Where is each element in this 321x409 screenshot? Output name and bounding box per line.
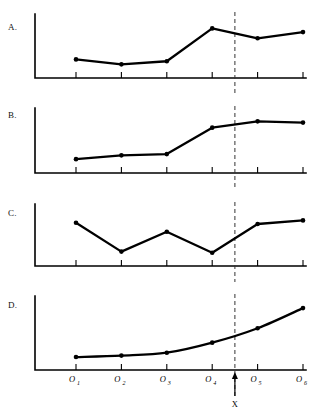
tick-label-base-0: O (69, 374, 75, 384)
panel-A-axes (35, 14, 306, 78)
panel-B-series (76, 121, 303, 159)
panel-A-point-O3 (165, 59, 170, 64)
tick-label-O5: O5 (251, 374, 262, 386)
panel-label-B: B. (8, 110, 17, 120)
panel-A-point-O5 (255, 36, 260, 41)
tick-label-O6: O6 (296, 374, 307, 386)
panel-B-point-O6 (301, 120, 306, 125)
panel-C-series (76, 220, 303, 252)
panel-B-point-O1 (74, 157, 79, 162)
tick-label-base-4: O (251, 374, 257, 384)
panel-A-series (76, 28, 303, 64)
panel-D-point-O5 (255, 326, 260, 331)
tick-label-base-1: O (114, 374, 120, 384)
panel-C (35, 202, 306, 282)
panel-D-point-O2 (119, 353, 124, 358)
panel-B-point-O2 (119, 153, 124, 158)
timeseries-figure: O1O2O3O4O5O6XA.B.C.D. (0, 0, 321, 409)
figure-canvas: O1O2O3O4O5O6X (0, 0, 321, 409)
tick-label-base-5: O (296, 374, 302, 384)
tick-label-sub-3: 4 (213, 380, 216, 386)
panel-C-point-O2 (119, 249, 124, 254)
panel-B (35, 106, 306, 189)
panel-D-point-O1 (74, 355, 79, 360)
panel-D-point-O3 (165, 350, 170, 355)
tick-label-sub-4: 5 (259, 380, 262, 386)
panel-B-point-O5 (255, 119, 260, 124)
tick-label-O4: O4 (205, 374, 216, 386)
panel-C-point-O5 (255, 222, 260, 227)
panel-C-point-O6 (301, 218, 306, 223)
panel-D-series (76, 308, 303, 357)
tick-label-sub-2: 3 (167, 380, 171, 386)
panel-D-point-O6 (301, 306, 306, 311)
panel-C-axes (35, 204, 306, 266)
panel-A-point-O1 (74, 57, 79, 62)
panel-label-C: C. (8, 208, 17, 218)
panel-label-D: D. (8, 300, 17, 310)
tick-label-O2: O2 (114, 374, 125, 386)
tick-label-base-2: O (160, 374, 166, 384)
panel-A-point-O6 (301, 30, 306, 35)
tick-label-sub-5: 6 (304, 380, 307, 386)
panel-label-A: A. (8, 22, 17, 32)
arrow-head (232, 372, 238, 379)
tick-label-O1: O1 (69, 374, 80, 386)
intervention-label: X (232, 399, 238, 409)
panel-B-point-O3 (165, 152, 170, 157)
panel-A-point-O4 (210, 26, 215, 31)
panel-C-point-O4 (210, 251, 215, 256)
panel-A-point-O2 (119, 62, 124, 67)
tick-label-O3: O3 (160, 374, 171, 386)
tick-label-sub-0: 1 (77, 380, 80, 386)
panel-C-point-O3 (165, 230, 170, 235)
panel-A (35, 12, 306, 94)
panel-D-point-O4 (210, 340, 215, 345)
intervention-arrow: X (232, 372, 238, 409)
panel-C-point-O1 (74, 221, 79, 226)
tick-label-base-3: O (205, 374, 211, 384)
panel-B-axes (35, 108, 306, 173)
panel-B-point-O4 (210, 125, 215, 130)
tick-label-sub-1: 2 (122, 380, 125, 386)
